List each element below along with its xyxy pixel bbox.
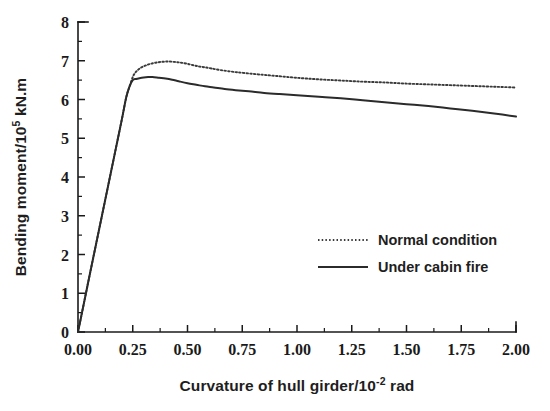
y-tick-label: 5 (61, 130, 69, 147)
x-tick-label: 0.25 (119, 341, 147, 358)
y-axis-title-pre: Bending moment/10 (12, 126, 29, 276)
x-axis-tick-labels: 0.000.250.500.751.001.251.501.752.00 (64, 341, 530, 358)
y-tick-label: 8 (61, 14, 69, 31)
svg-text:Bending moment/105 kN.m: Bending moment/105 kN.m (10, 78, 29, 277)
x-tick-label: 1.50 (393, 341, 421, 358)
y-axis-title-post: kN.m (12, 78, 29, 121)
y-tick-label: 6 (61, 92, 69, 109)
y-axis-title: Bending moment/105 kN.m (10, 78, 29, 277)
legend-label-normal-condition: Normal condition (378, 232, 497, 248)
x-tick-label: 1.25 (338, 341, 366, 358)
x-axis-title-pre: Curvature of hull girder/10 (180, 377, 377, 394)
x-axis-title-exponent: -2 (376, 375, 386, 387)
y-tick-label: 0 (61, 324, 69, 341)
y-tick-label: 2 (61, 247, 69, 264)
bending-moment-curvature-chart: 012345678 0.000.250.500.751.001.251.501.… (0, 0, 550, 411)
legend-label-under-cabin-fire: Under cabin fire (378, 259, 488, 275)
y-tick-label: 3 (61, 208, 69, 225)
x-tick-label: 2.00 (502, 341, 530, 358)
y-tick-label: 7 (61, 53, 69, 70)
x-axis-title-post: rad (386, 377, 415, 394)
y-tick-label: 1 (61, 285, 69, 302)
x-tick-label: 0.75 (228, 341, 256, 358)
x-tick-label: 0.00 (64, 341, 92, 358)
x-tick-label: 1.00 (283, 341, 311, 358)
y-axis-tick-labels: 012345678 (61, 14, 69, 341)
x-tick-label: 0.50 (174, 341, 202, 358)
x-tick-label: 1.75 (447, 341, 475, 358)
y-tick-label: 4 (61, 169, 69, 186)
